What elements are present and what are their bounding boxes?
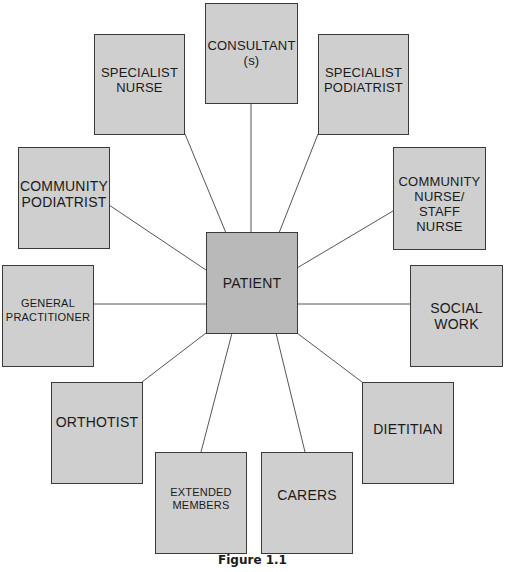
figure-caption: Figure 1.1 (0, 553, 505, 567)
node-label: CARERS (277, 488, 337, 503)
edge-orthotist (142, 333, 206, 382)
node-specialist-nurse: SPECIALIST NURSE (94, 34, 185, 135)
node-consultant: CONSULTANT (s) (205, 3, 298, 104)
node-label: WORK (434, 316, 478, 332)
node-label: DIETITIAN (373, 422, 442, 437)
edge-carers (276, 333, 305, 452)
edge-specialist-podiatrist (279, 134, 318, 233)
edge-specialist-nurse (185, 134, 226, 233)
node-community-nurse: COMMUNITY NURSE/ STAFF NURSE (393, 147, 486, 250)
node-community-podiatrist: COMMUNITY PODIATRIST (18, 147, 110, 249)
node-label: STAFF (419, 204, 460, 219)
node-label: ORTHOTIST (56, 415, 138, 430)
edge-extended-members (201, 333, 232, 452)
node-label: (s) (244, 53, 260, 68)
node-label: NURSE (116, 80, 163, 95)
node-label: SPECIALIST (325, 65, 402, 80)
node-label: PODIATRIST (324, 80, 403, 95)
node-extended-members: EXTENDED MEMBERS (155, 452, 247, 554)
node-label: SOCIAL (430, 300, 483, 316)
node-orthotist: ORTHOTIST (51, 382, 143, 484)
node-carers: CARERS (261, 452, 353, 554)
node-label: EXTENDED (170, 486, 232, 499)
node-label: PODIATRIST (22, 194, 107, 210)
edge-dietitian (297, 333, 362, 382)
node-general-practitioner: GENERAL PRACTITIONER (2, 265, 94, 367)
node-dietitian: DIETITIAN (362, 382, 454, 484)
node-label: COMMUNITY (20, 178, 108, 194)
node-social-work: SOCIAL WORK (410, 265, 503, 367)
edge-community-nurse (297, 211, 393, 268)
edge-community-podiatrist (109, 205, 206, 270)
node-label: NURSE (416, 219, 463, 234)
node-label: CONSULTANT (207, 38, 295, 53)
node-label: COMMUNITY (399, 174, 481, 189)
node-label: NURSE/ (414, 189, 464, 204)
node-label: PRACTITIONER (6, 310, 90, 324)
node-patient: PATIENT (206, 232, 298, 334)
node-label: SPECIALIST (101, 65, 178, 80)
node-specialist-podiatrist: SPECIALIST PODIATRIST (318, 34, 409, 135)
node-label: MEMBERS (172, 499, 229, 512)
node-label: PATIENT (223, 276, 281, 291)
node-label: GENERAL (21, 296, 75, 310)
